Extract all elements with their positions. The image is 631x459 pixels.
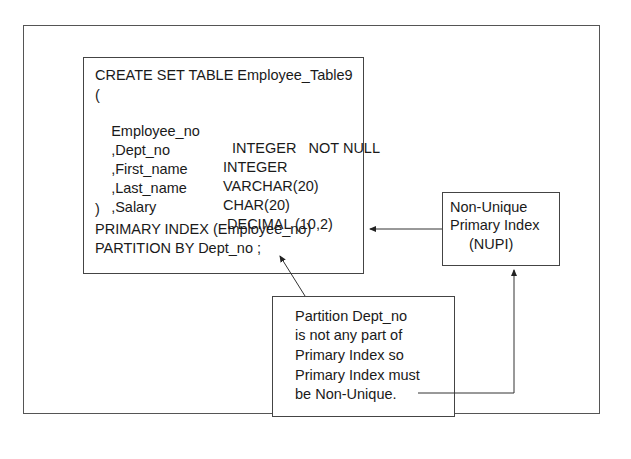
nupi-line-3: (NUPI) bbox=[469, 236, 513, 253]
note-line-4: Primary Index must bbox=[295, 367, 420, 384]
nupi-line-2: Primary Index bbox=[450, 217, 539, 234]
column-name: ,Salary bbox=[111, 199, 156, 215]
column-type: VARCHAR(20) bbox=[223, 178, 319, 195]
note-line-5: be Non-Unique. bbox=[295, 386, 397, 403]
column-type: CHAR(20) bbox=[223, 197, 290, 214]
column-type: INTEGER bbox=[223, 159, 287, 176]
primary-index-clause: PRIMARY INDEX (Employee_no) bbox=[95, 221, 311, 238]
create-table-statement: CREATE SET TABLE Employee_Table9 bbox=[95, 67, 353, 84]
partition-note-box: Partition Dept_no is not any part of Pri… bbox=[272, 296, 455, 417]
note-line-2: is not any part of bbox=[295, 327, 402, 344]
sql-code-box: CREATE SET TABLE Employee_Table9 ( Emplo… bbox=[83, 57, 364, 274]
nupi-line-1: Non-Unique bbox=[450, 199, 527, 216]
partition-clause: PARTITION BY Dept_no ; bbox=[95, 240, 261, 257]
column-type: INTEGER NOT NULL bbox=[232, 140, 380, 157]
open-paren: ( bbox=[95, 87, 100, 104]
nupi-callout-box: Non-Unique Primary Index (NUPI) bbox=[442, 192, 560, 266]
close-paren: ) bbox=[95, 201, 100, 218]
note-line-3: Primary Index so bbox=[295, 347, 404, 364]
note-line-1: Partition Dept_no bbox=[295, 308, 407, 325]
